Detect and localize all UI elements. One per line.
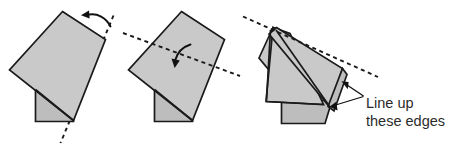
callout-text-line-2: these edges: [366, 113, 445, 129]
origami-instruction-diagram: Line up these edges: [0, 0, 449, 144]
callout-text-line-1: Line up: [366, 95, 414, 111]
